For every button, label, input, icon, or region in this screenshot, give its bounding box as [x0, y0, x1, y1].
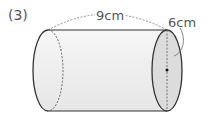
diameter-label: 6cm [168, 16, 196, 29]
cylinder-body [33, 30, 167, 111]
length-label: 9cm [95, 9, 125, 22]
center-point [166, 69, 169, 72]
